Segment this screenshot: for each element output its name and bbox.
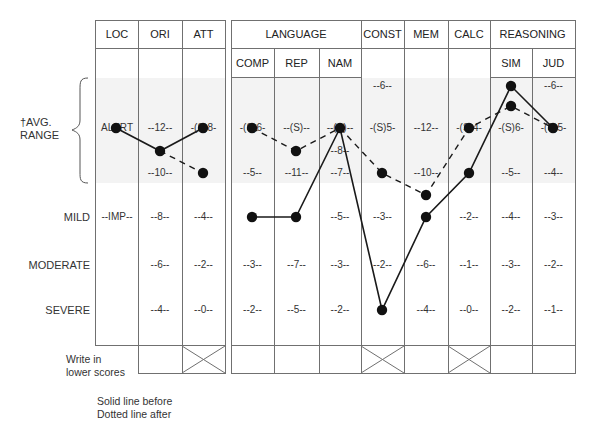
grid-lines (95, 20, 576, 374)
write-in-mem[interactable] (405, 346, 448, 373)
write-in-nam[interactable] (320, 346, 361, 373)
avg-range-brace (72, 78, 88, 183)
write-in-jud[interactable] (533, 346, 575, 373)
data-points (111, 81, 558, 315)
write-in-rep[interactable] (275, 346, 319, 373)
write-in-ori[interactable] (139, 346, 182, 373)
write-in-sim[interactable] (491, 346, 532, 373)
write-in-comp[interactable] (232, 346, 274, 373)
solid-line-before (116, 86, 553, 310)
